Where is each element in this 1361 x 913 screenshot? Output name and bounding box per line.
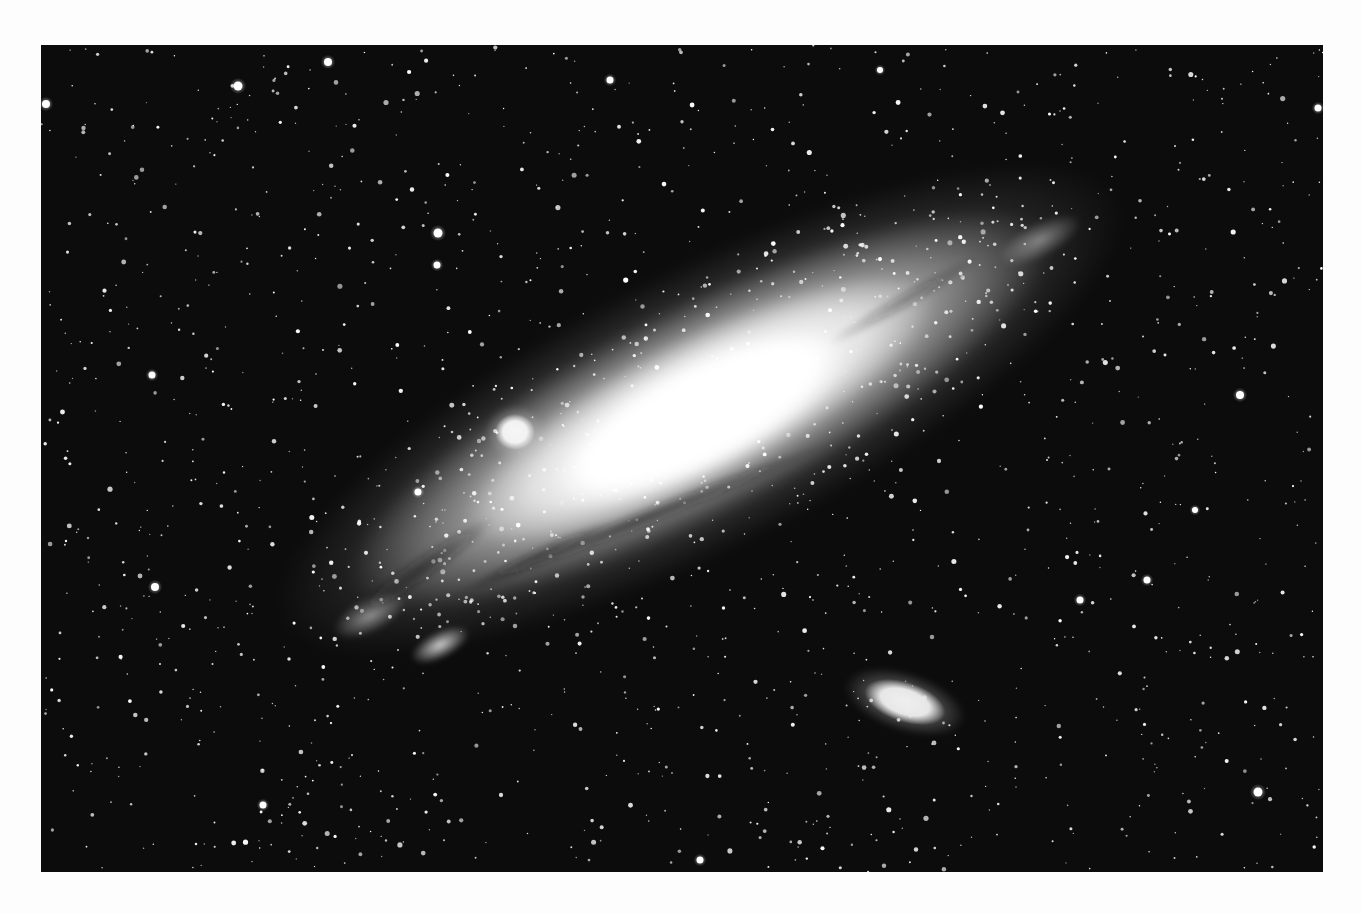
galaxy-scene — [41, 45, 1323, 872]
andromeda-galaxy-photo: Black and white photograph of the Androm… — [41, 45, 1323, 872]
page-background: Black and white photograph of the Androm… — [0, 0, 1361, 913]
companion-galaxy-m32 — [485, 405, 545, 459]
